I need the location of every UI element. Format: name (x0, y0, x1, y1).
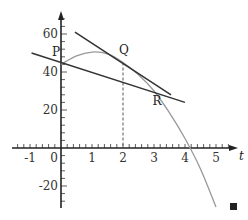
x-tick-label: 0 (50, 151, 58, 165)
x-tick-label: -1 (24, 151, 36, 165)
x-tick-label: 2 (119, 151, 127, 165)
end-square-icon (230, 203, 237, 210)
y-tick-label: 40 (43, 65, 58, 79)
y-tick-label: 20 (43, 103, 58, 117)
point-label-q: Q (119, 43, 129, 57)
x-tick-label: 5 (212, 151, 220, 165)
y-tick-label: -20 (39, 179, 58, 193)
y-tick-label: 60 (43, 27, 58, 41)
x-axis-arrow-icon (229, 145, 238, 151)
x-tick-labels: -1012345 (24, 151, 220, 165)
x-tick-label: 3 (150, 151, 158, 165)
x-tick-label: 1 (88, 151, 96, 165)
point-label-p: P (52, 45, 60, 59)
chart: -1012345 -20204060 t PQR (0, 0, 248, 220)
x-axis-label: t (239, 149, 244, 163)
y-axis-arrow-icon (58, 11, 64, 20)
x-tick-label: 4 (181, 151, 189, 165)
curve-line (61, 52, 216, 207)
point-label-r: R (153, 94, 163, 108)
